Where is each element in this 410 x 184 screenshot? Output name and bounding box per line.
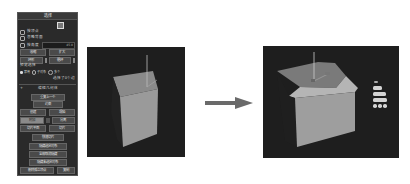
by-angle-row[interactable]: 按角度 45.0 bbox=[20, 42, 75, 49]
ok-icon[interactable] bbox=[373, 104, 377, 108]
constraint-button[interactable]: 约束 bbox=[33, 101, 63, 108]
attach-settings-icon[interactable] bbox=[46, 118, 50, 123]
edge-mode-icon[interactable] bbox=[57, 22, 64, 29]
shrink-grow-row: 收缩 扩大 bbox=[20, 49, 75, 56]
preview-options: 禁用 子对象 多个 bbox=[20, 70, 75, 75]
slice-plane-button[interactable]: 切片平面 bbox=[20, 125, 46, 132]
rollout-title[interactable]: 选择 bbox=[18, 13, 77, 20]
slice-row: 切片平面 切片 bbox=[20, 125, 75, 132]
caddy-title bbox=[374, 81, 378, 83]
preview-multi-label: 多个 bbox=[54, 71, 60, 74]
hide-selected-row: 隐藏选定对象 bbox=[20, 143, 75, 150]
viewport-before[interactable] bbox=[87, 47, 185, 157]
selection-rollout-panel: 选择 按顶点 忽略背面 按角度 45.0 收缩 扩大 环形 循环 预览选择 禁用… bbox=[17, 12, 78, 176]
selection-status: 选择了0个边 bbox=[53, 77, 75, 81]
grow-button[interactable]: 扩大 bbox=[49, 49, 75, 56]
preview-off-label: 禁用 bbox=[24, 71, 30, 74]
ignore-backfacing-row[interactable]: 忽略背面 bbox=[20, 36, 75, 41]
quickslice-row: 快速切片 bbox=[20, 134, 75, 141]
unhide-all-row: 全部取消隐藏 bbox=[20, 151, 75, 158]
create-button[interactable]: 创建 bbox=[20, 109, 46, 116]
subobject-icons bbox=[20, 22, 75, 29]
hide-unselected-row: 隐藏未选定对象 bbox=[20, 159, 75, 166]
loop-spinner[interactable] bbox=[73, 58, 75, 63]
caddy-segments-field[interactable] bbox=[373, 92, 386, 96]
ring-spinner[interactable] bbox=[45, 58, 47, 63]
selection-status-row: 选择了0个边 bbox=[20, 77, 75, 81]
box-original-icon bbox=[87, 47, 185, 157]
by-angle-checkbox[interactable] bbox=[20, 43, 25, 48]
detach-button[interactable]: 分离 bbox=[52, 117, 76, 124]
shrink-button[interactable]: 收缩 bbox=[20, 49, 46, 56]
delete-isolated-button[interactable]: 删除孤立顶点 bbox=[20, 167, 54, 174]
caddy-smooth-field[interactable] bbox=[373, 98, 387, 102]
collapse-button[interactable]: 塌陷 bbox=[49, 109, 75, 116]
arrow-right-icon bbox=[205, 97, 255, 109]
copy-button[interactable]: 复制 bbox=[57, 167, 75, 174]
by-angle-label: 按角度 bbox=[27, 44, 39, 48]
angle-spinner[interactable]: 45.0 bbox=[42, 42, 76, 49]
edit-geometry-title-row[interactable]: + 编辑几何体 bbox=[20, 87, 75, 91]
apply-icon[interactable] bbox=[378, 104, 382, 108]
box-chamfered-icon bbox=[263, 46, 399, 158]
hide-unselected-button[interactable]: 隐藏未选定对象 bbox=[29, 159, 67, 166]
preview-subobj-radio[interactable]: 子对象 bbox=[32, 70, 47, 75]
caddy-amount-field[interactable] bbox=[373, 86, 382, 90]
attach-button[interactable]: 附加 bbox=[20, 117, 44, 124]
quickslice-button[interactable]: 快速切片 bbox=[32, 134, 64, 141]
by-vertex-row[interactable]: 按顶点 bbox=[20, 30, 75, 35]
divider bbox=[19, 84, 76, 85]
by-vertex-checkbox[interactable] bbox=[20, 30, 25, 35]
create-collapse-row: 创建 塌陷 bbox=[20, 109, 75, 116]
slice-button[interactable]: 切片 bbox=[49, 125, 75, 132]
ignore-backfacing-checkbox[interactable] bbox=[20, 36, 25, 41]
preview-selection-label: 预览选择 bbox=[20, 64, 36, 68]
bottom-row: 删除孤立顶点 复制 bbox=[20, 167, 75, 174]
hide-selected-button[interactable]: 隐藏选定对象 bbox=[29, 143, 67, 150]
preview-multi-radio[interactable]: 多个 bbox=[48, 70, 60, 75]
radio-icon bbox=[32, 70, 37, 75]
edit-geometry-title: 编辑几何体 bbox=[38, 87, 58, 91]
cancel-icon[interactable] bbox=[383, 104, 387, 108]
repeat-last-button[interactable]: 重复上一个 bbox=[31, 94, 65, 101]
preview-off-radio[interactable]: 禁用 bbox=[20, 71, 30, 74]
loop-button[interactable]: 循环 bbox=[49, 57, 72, 64]
viewport-after[interactable] bbox=[263, 46, 399, 158]
rollout-expand-icon[interactable]: + bbox=[20, 87, 23, 91]
preview-subobj-label: 子对象 bbox=[37, 71, 46, 74]
repeat-last-row: 重复上一个 bbox=[20, 94, 75, 101]
attach-detach-row: 附加 分离 bbox=[20, 117, 75, 124]
radio-selected-icon bbox=[20, 71, 23, 74]
unhide-all-button[interactable]: 全部取消隐藏 bbox=[29, 151, 67, 158]
radio-icon bbox=[48, 70, 53, 75]
ignore-backfacing-label: 忽略背面 bbox=[27, 36, 43, 40]
by-vertex-label: 按顶点 bbox=[27, 30, 39, 34]
preview-selection-label-row: 预览选择 bbox=[20, 64, 75, 68]
constraint-row: 约束 bbox=[20, 101, 75, 108]
